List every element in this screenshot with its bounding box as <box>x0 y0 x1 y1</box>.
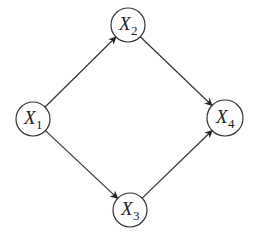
node-subscript: 1 <box>36 117 43 132</box>
node-label: X <box>120 198 134 219</box>
node-x3: X3 <box>113 193 147 227</box>
node-x4: X4 <box>207 100 243 136</box>
edge-x2-to-x4 <box>140 37 212 106</box>
node-subscript: 4 <box>228 116 235 131</box>
node-subscript: 2 <box>131 23 138 38</box>
node-label: X <box>23 107 37 128</box>
node-subscript: 3 <box>133 208 140 223</box>
node-x2: X2 <box>111 8 145 42</box>
edge-x1-to-x2 <box>45 37 116 107</box>
edge-x1-to-x3 <box>45 131 117 199</box>
dag-diagram: X1X2X3X4 <box>0 0 260 244</box>
nodes: X1X2X3X4 <box>16 8 243 227</box>
node-label: X <box>118 13 132 34</box>
edges <box>45 37 212 199</box>
node-x1: X1 <box>16 102 50 136</box>
node-label: X <box>215 106 229 127</box>
edge-x3-to-x4 <box>142 131 212 199</box>
